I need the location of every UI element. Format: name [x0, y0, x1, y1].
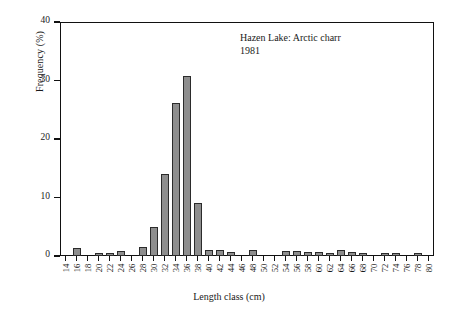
bar-34	[172, 103, 180, 256]
bar-64	[337, 250, 345, 256]
bar-56	[293, 251, 301, 256]
y-tick-mark	[54, 255, 60, 256]
bar-38	[194, 203, 202, 256]
bar-66	[348, 252, 356, 256]
bar-36	[183, 76, 191, 256]
y-tick-label: 40	[20, 15, 50, 25]
bar-20	[95, 253, 103, 256]
bar-58	[304, 252, 312, 256]
bar-54	[282, 251, 290, 256]
y-tick-label: 10	[20, 191, 50, 201]
y-tick-label: 20	[20, 132, 50, 142]
x-tick-label: 18	[83, 246, 93, 290]
y-tick-mark	[54, 138, 60, 139]
x-tick-label: 50	[259, 246, 269, 290]
chart-annotation: Hazen Lake: Arctic charr 1981	[240, 32, 341, 57]
bar-60	[315, 252, 323, 256]
x-tick-label: 46	[237, 246, 247, 290]
bar-16	[73, 248, 81, 256]
bar-68	[359, 253, 367, 256]
bar-72	[381, 253, 389, 256]
x-axis-label: Length class (cm)	[0, 291, 458, 302]
x-tick-label: 26	[127, 246, 137, 290]
x-tick-label: 52	[270, 246, 280, 290]
bar-40	[205, 250, 213, 256]
bar-28	[139, 247, 147, 256]
y-tick-label: 0	[20, 249, 50, 259]
chart-figure: Frequency (%) 010203040 1416182022242628…	[0, 0, 458, 310]
bar-24	[117, 251, 125, 256]
bar-74	[392, 253, 400, 256]
bar-42	[216, 250, 224, 256]
bar-32	[161, 174, 169, 256]
y-tick-mark	[54, 21, 60, 22]
chart-title-line2: 1981	[240, 45, 341, 58]
y-tick-label: 30	[20, 74, 50, 84]
bar-78	[414, 253, 422, 256]
x-tick-label: 70	[369, 246, 379, 290]
bar-30	[150, 227, 158, 256]
x-tick-label: 76	[402, 246, 412, 290]
x-tick-label: 14	[61, 246, 71, 290]
y-tick-mark	[54, 197, 60, 198]
bar-44	[227, 252, 235, 256]
bar-22	[106, 253, 114, 256]
y-tick-mark	[54, 80, 60, 81]
bar-62	[326, 253, 334, 256]
chart-title-line1: Hazen Lake: Arctic charr	[240, 32, 341, 45]
x-tick-label: 80	[424, 246, 434, 290]
bar-48	[249, 250, 257, 256]
plot-area	[60, 22, 434, 256]
